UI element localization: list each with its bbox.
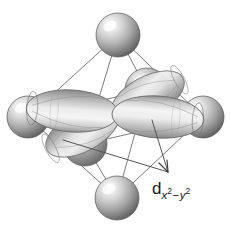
orbital-label: dx2−y2 [152,180,190,201]
ligand-sphere-top [96,13,140,57]
orbital-label-subscript: x2−y2 [161,189,190,201]
orbital-diagram-svg [0,0,230,229]
subscript-operator: − [172,189,180,201]
subscript-y-exponent: 2 [185,186,190,196]
orbital-figure: dx2−y2 [0,0,230,229]
ligand-sphere-bottom [95,176,139,220]
